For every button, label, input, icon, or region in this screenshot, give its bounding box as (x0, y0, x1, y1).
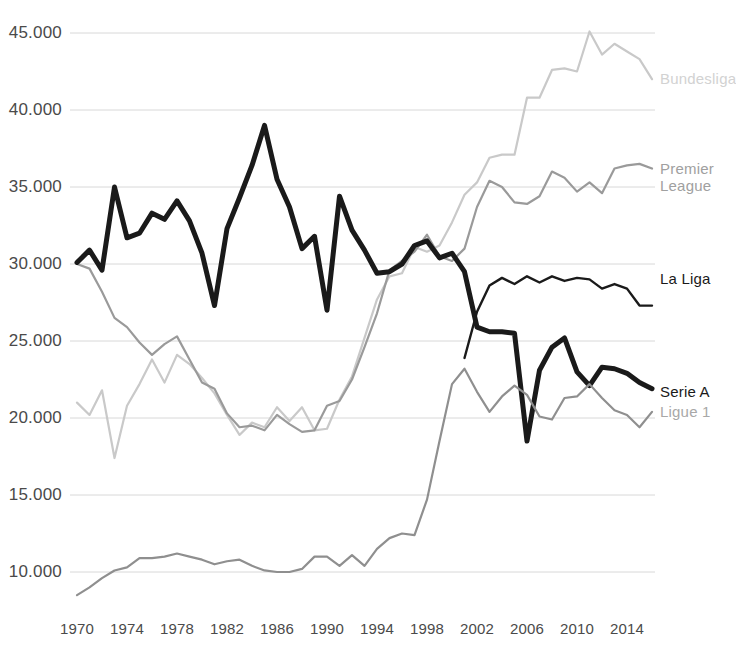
y-axis-tick-label: 40.000 (0, 100, 62, 120)
series-label-la-liga: La Liga (660, 270, 711, 287)
y-axis-tick-label: 15.000 (0, 485, 62, 505)
y-axis-tick-label: 25.000 (0, 331, 62, 351)
series-line-bundesliga (77, 31, 652, 458)
series-line-serie-a (77, 125, 652, 441)
series-label-serie-a: Serie A (660, 383, 710, 400)
series-line-ligue-1 (77, 369, 652, 595)
series-label-bundesliga: Bundesliga (660, 70, 736, 87)
y-axis-tick-label: 30.000 (0, 254, 62, 274)
chart-container: 45.00040.00035.00030.00025.00020.00015.0… (0, 0, 736, 656)
x-axis-tick-label: 2014 (597, 620, 657, 637)
series-label-ligue-1: Ligue 1 (660, 403, 711, 420)
gridlines (70, 33, 655, 572)
y-axis-tick-label: 35.000 (0, 177, 62, 197)
y-axis-tick-label: 45.000 (0, 23, 62, 43)
series-lines (77, 31, 652, 595)
series-label-premier-league: Premier League (660, 160, 714, 194)
y-axis-tick-label: 10.000 (0, 562, 62, 582)
y-axis-tick-label: 20.000 (0, 408, 62, 428)
chart-plot-area (0, 0, 736, 656)
series-line-la-liga (465, 276, 653, 358)
series-line-premier-league (77, 164, 652, 432)
